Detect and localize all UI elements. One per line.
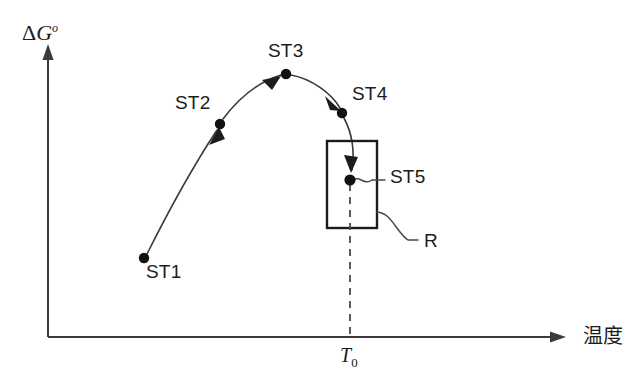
diagram-svg (0, 0, 643, 384)
region-label-r: R (424, 231, 438, 250)
x-axis-arrowhead-icon (550, 332, 566, 343)
y-axis-delta-glyph: Δ (22, 20, 36, 45)
y-axis-arrowhead-icon (43, 44, 54, 60)
state-label-st3: ST3 (268, 41, 303, 60)
y-axis-symbol-glyph: G (36, 20, 52, 45)
segment-st3-st4 (291, 75, 340, 108)
segment-st1-st2 (147, 130, 217, 254)
x-axis-tick-label-t0: T0 (340, 345, 358, 369)
state-label-st2: ST2 (175, 93, 210, 112)
t0-symbol-glyph: T (340, 344, 351, 366)
arrowhead-into-st5-icon (344, 155, 358, 173)
x-axis-label: 温度 (583, 326, 623, 346)
state-label-st4: ST4 (352, 84, 387, 103)
state-dot-st5 (344, 174, 355, 185)
st5-leader-line (353, 179, 385, 182)
y-axis-label: ΔGo (22, 22, 58, 44)
state-dot-st4 (337, 108, 347, 118)
arrowhead-into-st3-icon (262, 76, 281, 90)
state-markers-group (139, 69, 356, 263)
region-leader-line (377, 212, 418, 240)
figure-canvas: ΔGo 温度 T0 ST1 ST2 ST3 ST4 ST5 R (0, 0, 643, 384)
state-dot-st2 (215, 119, 225, 129)
axis-group (43, 44, 567, 343)
state-dot-st3 (281, 69, 291, 79)
state-label-st1: ST1 (146, 262, 181, 281)
t0-subscript-glyph: 0 (351, 355, 358, 370)
y-axis-superscript-glyph: o (52, 21, 58, 35)
state-label-st5: ST5 (390, 167, 425, 186)
